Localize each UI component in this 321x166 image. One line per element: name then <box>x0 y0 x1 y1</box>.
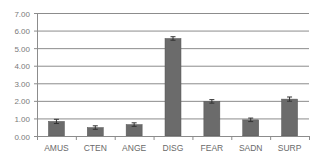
x-category-label: SADN <box>239 143 263 153</box>
y-tick-label: 7.00 <box>14 10 30 19</box>
bar-disg <box>165 38 181 136</box>
y-tick-label: 6.00 <box>14 27 30 36</box>
y-tick-label: 3.00 <box>14 80 30 89</box>
bar-sadn <box>243 120 259 136</box>
y-tick-label: 1.00 <box>14 115 30 124</box>
bar-surp <box>282 99 298 136</box>
bar-fear <box>204 101 220 136</box>
x-category-label: ANGE <box>122 143 146 153</box>
bar-chart: 0.001.002.003.004.005.006.007.00 AMUSCTE… <box>0 0 321 166</box>
bars <box>48 37 297 136</box>
y-tick-label: 0.00 <box>14 133 30 142</box>
y-tick-label: 2.00 <box>14 97 30 106</box>
x-category-label: SURP <box>278 143 302 153</box>
x-category-label: DISG <box>163 143 184 153</box>
y-axis: 0.001.002.003.004.005.006.007.00 <box>14 10 37 142</box>
x-category-label: FEAR <box>201 143 224 153</box>
x-category-label: AMUS <box>44 143 69 153</box>
y-tick-label: 5.00 <box>14 45 30 54</box>
x-category-label: CTEN <box>84 143 107 153</box>
x-axis: AMUSCTENANGEDISGFEARSADNSURP <box>37 136 310 153</box>
y-tick-label: 4.00 <box>14 62 30 71</box>
